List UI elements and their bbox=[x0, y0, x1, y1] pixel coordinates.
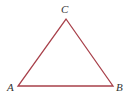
vertex-label-a: A bbox=[7, 82, 14, 93]
vertex-label-b: B bbox=[116, 82, 123, 93]
vertex-label-c: C bbox=[61, 4, 68, 15]
triangle-abc bbox=[18, 19, 113, 86]
triangle-diagram: C A B bbox=[0, 0, 127, 98]
